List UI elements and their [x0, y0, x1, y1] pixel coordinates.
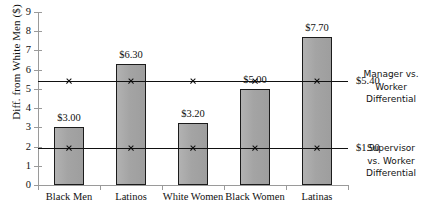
reference-line-marker — [190, 145, 197, 152]
y-axis-tick — [34, 50, 42, 51]
reference-line-marker — [314, 145, 321, 152]
y-axis-tick-label: 5 — [26, 84, 31, 95]
y-axis-title: Diff. from White Men ($) — [10, 0, 22, 142]
bar[interactable] — [54, 127, 84, 185]
y-axis-tick-label: 6 — [26, 64, 31, 75]
reference-line-marker — [314, 78, 321, 85]
legend-supervisor-line-2: vs. Worker — [352, 155, 430, 168]
y-axis-tick-label: 2 — [26, 141, 31, 152]
y-axis-tick-label: 8 — [26, 26, 31, 37]
y-axis-tick — [34, 127, 42, 128]
x-axis-category-label: White Women — [163, 192, 224, 203]
y-axis-tick — [34, 12, 42, 13]
reference-line-marker — [66, 145, 73, 152]
y-axis-tick-label: 1 — [26, 161, 31, 172]
y-axis-tick-label: 4 — [26, 103, 31, 114]
y-axis-line — [38, 12, 39, 185]
x-axis-line — [38, 185, 348, 186]
y-axis-tick — [34, 108, 42, 109]
x-axis-tick — [100, 185, 101, 190]
y-axis-tick — [34, 31, 42, 32]
x-axis-category-label: Latinos — [115, 192, 147, 203]
x-axis-tick — [224, 185, 225, 190]
x-axis-tick — [286, 185, 287, 190]
bar-value-label: $3.00 — [57, 113, 81, 124]
y-axis-tick — [34, 70, 42, 71]
y-axis-tick — [34, 147, 42, 148]
x-axis-tick — [38, 185, 39, 190]
y-axis-tick — [34, 166, 42, 167]
x-axis-tick — [162, 185, 163, 190]
bar-chart: Diff. from White Men ($) 0123456789$3.00… — [0, 0, 431, 212]
y-axis-tick-label: 3 — [26, 122, 31, 133]
bar-value-label: $7.70 — [305, 23, 329, 34]
x-axis-category-label: Black Men — [46, 192, 92, 203]
x-axis-tick — [348, 185, 349, 190]
y-axis-tick-label: 0 — [26, 180, 31, 191]
bar-value-label: $6.30 — [119, 50, 143, 61]
reference-line-marker — [128, 78, 135, 85]
reference-line-value-label: $5.40 — [356, 76, 380, 87]
reference-line-marker — [252, 78, 259, 85]
reference-line-marker — [252, 145, 259, 152]
legend-supervisor-line-3: Differential — [352, 167, 430, 180]
y-axis-tick-label: 7 — [26, 45, 31, 56]
y-axis-tick — [34, 89, 42, 90]
reference-line-marker — [66, 78, 73, 85]
bar-value-label: $3.20 — [181, 109, 205, 120]
x-axis-category-label: Black Women — [225, 192, 284, 203]
bar[interactable] — [178, 123, 208, 185]
x-axis-category-label: Latinas — [302, 192, 333, 203]
legend-manager-vs-worker: Manager vs. Worker Differential — [352, 68, 430, 106]
plot-area: 0123456789$3.00Black Men$6.30Latinos$3.2… — [38, 12, 348, 185]
reference-line-marker — [190, 78, 197, 85]
bar[interactable] — [240, 89, 270, 185]
reference-line-value-label: $1.90 — [356, 143, 380, 154]
reference-line-marker — [128, 145, 135, 152]
bar[interactable] — [302, 37, 332, 185]
legend-manager-line-3: Differential — [352, 93, 430, 106]
y-axis-tick-label: 9 — [26, 7, 31, 18]
